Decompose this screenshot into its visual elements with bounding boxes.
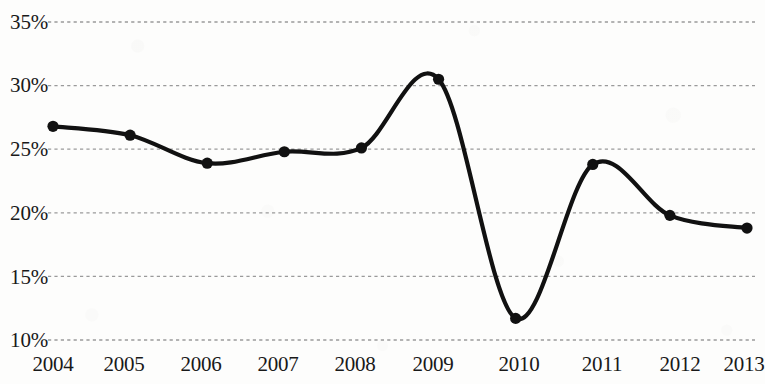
data-point-2009 (433, 74, 444, 85)
line-chart: 35% 30% 25% 20% 15% 10% 2004 2005 2006 2… (0, 0, 765, 384)
data-point-2008 (356, 142, 367, 153)
plot-area (0, 0, 765, 384)
data-point-2004 (47, 121, 58, 132)
data-point-2005 (125, 130, 136, 141)
series-line (53, 73, 747, 319)
data-point-2006 (202, 158, 213, 169)
data-point-2010 (510, 313, 521, 324)
data-point-2012 (664, 210, 675, 221)
data-point-2007 (279, 146, 290, 157)
data-point-2011 (587, 159, 598, 170)
data-point-2013 (741, 222, 752, 233)
gridlines (48, 22, 755, 340)
